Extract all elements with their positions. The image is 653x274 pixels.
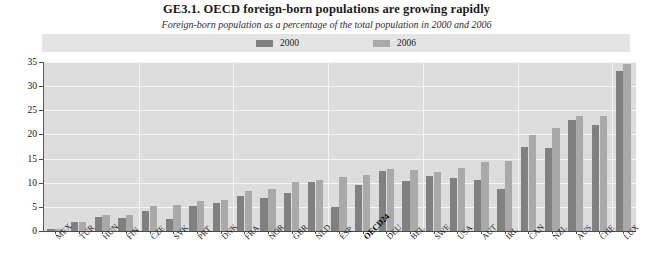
bar-group-deu[interactable] [379, 62, 394, 231]
bar-aut-2000[interactable] [474, 180, 481, 231]
bar-usa-2006[interactable] [458, 168, 465, 231]
bar-group-oecd24[interactable] [355, 62, 370, 231]
bar-group-esp[interactable] [331, 62, 346, 231]
bar-group-cze[interactable] [142, 62, 157, 231]
bar-group-svk[interactable] [166, 62, 181, 231]
chart-title: GE3.1. OECD foreign-born populations are… [0, 2, 653, 17]
legend-entry-2000[interactable]: 2000 [256, 38, 299, 48]
y-tick-label-30: 30 [4, 81, 37, 91]
legend-swatch-2000-icon [256, 40, 273, 47]
bar-group-irl[interactable] [497, 62, 512, 231]
bar-can-2000[interactable] [521, 147, 528, 231]
bar-nor-2006[interactable] [268, 189, 275, 231]
legend-label-2000: 2000 [280, 38, 299, 48]
legend-swatch-2006-icon [373, 40, 390, 47]
bar-group-dnk[interactable] [213, 62, 228, 231]
bar-aus-2000[interactable] [568, 120, 575, 231]
bar-nzl-2006[interactable] [552, 128, 559, 231]
bar-mex-2000[interactable] [47, 229, 54, 231]
bar-group-usa[interactable] [450, 62, 465, 231]
y-tick-label-15: 15 [4, 154, 37, 164]
bar-lux-2006[interactable] [623, 64, 630, 231]
legend-entry-2006[interactable]: 2006 [373, 38, 416, 48]
bar-group-mex[interactable] [47, 62, 62, 231]
bar-swe-2000[interactable] [426, 176, 433, 231]
bar-oecd24-2006[interactable] [363, 175, 370, 231]
bar-irl-2000[interactable] [497, 189, 504, 231]
bar-group-nld[interactable] [308, 62, 323, 231]
bar-group-che[interactable] [592, 62, 607, 231]
bar-nor-2000[interactable] [260, 198, 267, 231]
bar-che-2000[interactable] [592, 125, 599, 231]
bar-group-swe[interactable] [426, 62, 441, 231]
y-tick-label-35: 35 [4, 57, 37, 67]
bar-group-tur[interactable] [71, 62, 86, 231]
bar-prt-2000[interactable] [189, 206, 196, 231]
bar-nld-2006[interactable] [316, 180, 323, 231]
y-tick-label-25: 25 [4, 105, 37, 115]
chart-figure: GE3.1. OECD foreign-born populations are… [0, 0, 653, 274]
bar-group-hun[interactable] [95, 62, 110, 231]
bar-dnk-2000[interactable] [213, 203, 220, 231]
bar-svk-2000[interactable] [166, 219, 173, 231]
bar-cze-2000[interactable] [142, 211, 149, 231]
bar-aut-2006[interactable] [481, 162, 488, 231]
bar-group-can[interactable] [521, 62, 536, 231]
y-tick-label-5: 5 [4, 202, 37, 212]
bar-oecd24-2000[interactable] [355, 185, 362, 231]
y-tick-label-0: 0 [4, 226, 37, 236]
bar-group-lux[interactable] [616, 62, 631, 231]
bar-che-2006[interactable] [600, 116, 607, 231]
legend-label-2006: 2006 [397, 38, 416, 48]
bar-esp-2000[interactable] [331, 207, 338, 231]
bar-lux-2000[interactable] [616, 71, 623, 231]
bar-nzl-2000[interactable] [545, 148, 552, 231]
bar-group-fra[interactable] [237, 62, 252, 231]
bar-nld-2000[interactable] [308, 182, 315, 231]
bar-bel-2000[interactable] [402, 181, 409, 231]
bar-group-nor[interactable] [260, 62, 275, 231]
bar-bel-2006[interactable] [410, 170, 417, 231]
bar-group-bel[interactable] [402, 62, 417, 231]
bar-group-gbr[interactable] [284, 62, 299, 231]
bar-group-aut[interactable] [474, 62, 489, 231]
bar-group-fin[interactable] [118, 62, 133, 231]
bar-irl-2006[interactable] [505, 161, 512, 231]
bars-layer [43, 62, 635, 231]
chart-legend: 2000 2006 [42, 34, 630, 52]
y-tick-label-20: 20 [4, 129, 37, 139]
y-tick-label-10: 10 [4, 178, 37, 188]
bar-fra-2000[interactable] [237, 196, 244, 231]
bar-fra-2006[interactable] [245, 191, 252, 231]
bar-group-nzl[interactable] [545, 62, 560, 231]
bar-gbr-2006[interactable] [292, 182, 299, 231]
bar-can-2006[interactable] [529, 135, 536, 231]
bar-usa-2000[interactable] [450, 178, 457, 231]
bar-gbr-2000[interactable] [284, 193, 291, 231]
bar-aus-2006[interactable] [576, 116, 583, 231]
bar-group-aus[interactable] [568, 62, 583, 231]
bar-esp-2006[interactable] [339, 177, 346, 231]
bar-group-prt[interactable] [189, 62, 204, 231]
bar-swe-2006[interactable] [434, 172, 441, 231]
chart-subtitle: Foreign-born population as a percentage … [0, 19, 653, 30]
